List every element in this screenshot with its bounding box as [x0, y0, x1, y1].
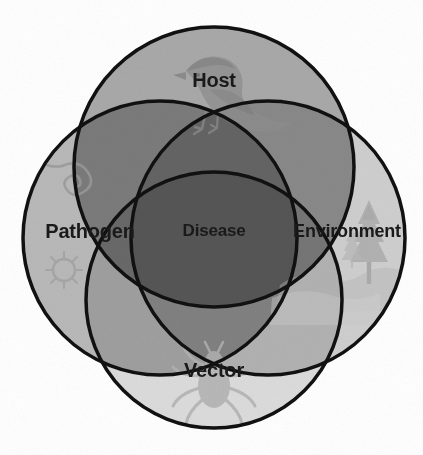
- set-label-vector[interactable]: Vector: [184, 359, 244, 382]
- venn-diagram: Host Pathogen Environment Vector Disease: [0, 0, 423, 455]
- center-label-disease[interactable]: Disease: [183, 221, 246, 241]
- set-label-host[interactable]: Host: [192, 69, 236, 92]
- set-label-environment[interactable]: Environment: [293, 221, 401, 242]
- set-label-pathogen[interactable]: Pathogen: [45, 220, 135, 243]
